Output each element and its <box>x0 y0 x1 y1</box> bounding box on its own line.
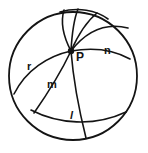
label-line-m: m <box>47 79 57 90</box>
geodesic-arc-upper-left <box>62 10 71 51</box>
geodesic-arc-n <box>71 26 128 51</box>
label-line-r: r <box>27 61 31 72</box>
point-p-marker <box>68 48 74 54</box>
geodesic-arc-l <box>71 51 86 138</box>
geodesic-arc-lower-chord <box>31 110 126 122</box>
label-point-p: P <box>76 51 84 63</box>
label-line-n: n <box>104 45 111 56</box>
hyperbolic-disk-figure: r P n m l <box>0 0 148 153</box>
figure-canvas <box>0 0 148 153</box>
label-line-l: l <box>70 110 73 121</box>
